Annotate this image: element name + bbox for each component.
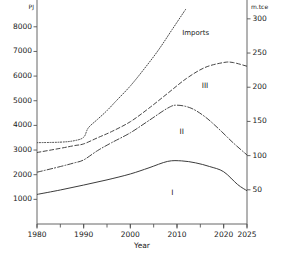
x-tick-label-1980: 1980: [27, 231, 46, 239]
x-tick-label-2010: 2010: [167, 231, 186, 239]
y-tick-label-4000: 4000: [13, 122, 32, 130]
y2-tick-label-100: 100: [253, 152, 267, 160]
series-line-production-i: [37, 161, 247, 195]
x-tick-label-2025: 2025: [237, 231, 256, 239]
y-axis-unit-label: PJ: [29, 4, 34, 10]
series-line-cumulative-iii: [37, 62, 247, 153]
y2-tick-label-150: 150: [253, 118, 267, 126]
series-line-total-demand: [37, 8, 186, 142]
y-tick-label-8000: 8000: [13, 23, 32, 31]
y-tick-label-3000: 3000: [13, 146, 32, 154]
annotation-i: I: [171, 189, 173, 197]
y-tick-label-2000: 2000: [13, 171, 32, 179]
annotation-iii: III: [202, 82, 209, 90]
y-tick-label-6000: 6000: [13, 72, 32, 80]
y2-tick-label-50: 50: [253, 186, 263, 194]
y-tick-label-7000: 7000: [13, 48, 32, 56]
energy-supply-chart: 1000200030004000500060007000800050100150…: [0, 0, 284, 263]
y2-tick-label-200: 200: [253, 83, 267, 91]
x-tick-label-2020: 2020: [214, 231, 233, 239]
y2-tick-label-300: 300: [253, 15, 267, 23]
y-tick-label-5000: 5000: [13, 97, 32, 105]
y-tick-label-1000: 1000: [13, 196, 32, 204]
chart-canvas: [0, 0, 284, 263]
x-axis-title: Year: [134, 242, 150, 250]
x-tick-label-2000: 2000: [121, 231, 140, 239]
annotation-imports: Imports: [182, 29, 209, 36]
y2-axis-unit-label: m.tce: [251, 4, 268, 10]
series-line-cumulative-ii: [37, 105, 247, 172]
annotation-ii: II: [179, 128, 183, 136]
x-tick-label-1990: 1990: [74, 231, 93, 239]
y2-tick-label-250: 250: [253, 49, 267, 57]
